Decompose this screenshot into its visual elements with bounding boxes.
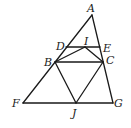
label-j: J <box>70 107 77 120</box>
label-c: C <box>106 54 115 67</box>
label-g: G <box>114 97 123 110</box>
point-labels: A D I E B C F J G <box>11 2 123 120</box>
label-a: A <box>86 2 95 15</box>
label-i: I <box>83 35 89 48</box>
segments <box>23 15 113 103</box>
segment-cj <box>76 62 103 103</box>
label-d: D <box>55 40 65 53</box>
geometry-diagram: A D I E B C F J G <box>0 0 131 128</box>
label-b: B <box>43 56 52 69</box>
label-f: F <box>11 97 20 110</box>
segment-af <box>23 15 92 103</box>
segment-bj <box>55 62 76 103</box>
